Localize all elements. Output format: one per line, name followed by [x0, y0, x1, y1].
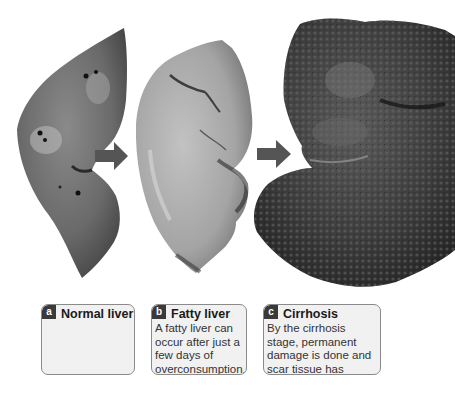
fatty-liver-image	[136, 40, 252, 273]
panel-card-normal-liver: a Normal liver	[41, 304, 135, 375]
panel-badge: b	[152, 305, 166, 319]
panel-title: Normal liver	[61, 307, 133, 321]
panel-description: By the cirrhosis stage, permanent damage…	[267, 322, 377, 375]
panel-title: Cirrhosis	[283, 307, 338, 321]
panel-card-cirrhosis: c Cirrhosis By the cirrhosis stage, perm…	[263, 304, 381, 375]
panel-description: A fatty liver can occur after just a few…	[155, 322, 243, 375]
panel-badge: a	[42, 305, 56, 319]
liver-photographs	[0, 0, 455, 300]
panel-badge: c	[264, 305, 278, 319]
panel-title: Fatty liver	[171, 307, 230, 321]
arrow-right-icon	[257, 140, 291, 168]
liver-progression-figure: a Normal liver b Fatty liver A fatty liv…	[0, 0, 455, 394]
panel-card-fatty-liver: b Fatty liver A fatty liver can occur af…	[151, 304, 247, 375]
